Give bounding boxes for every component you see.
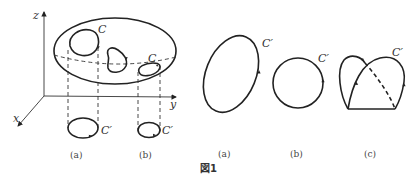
c-prime-label: C′: [318, 52, 329, 65]
y-axis: [44, 96, 176, 97]
projection-a: C′ (a): [68, 118, 112, 160]
axes-3d: z y x: [13, 9, 177, 126]
panel-b: C′ (b): [273, 52, 329, 159]
panel-c: C′ (c): [340, 46, 406, 159]
curve-c-label: C: [98, 23, 107, 36]
surface-curve-b: C: [139, 52, 160, 76]
figure-1: z y x C C C′ (a) C′: [0, 0, 415, 184]
sub-caption: (a): [70, 150, 82, 160]
c-prime-label: C′: [392, 46, 403, 59]
curve-c-prime: [193, 28, 269, 121]
curve-c-a: [70, 30, 99, 56]
surface-curve-mid: [108, 48, 128, 72]
curve-segment-hidden: [365, 63, 395, 109]
c-prime-label: C′: [262, 37, 273, 50]
surface-equator: [54, 55, 176, 64]
sub-caption: (a): [218, 149, 230, 159]
arrow-icon: [321, 79, 324, 82]
c-prime-label: C′: [101, 124, 112, 137]
curve-mid: [108, 48, 127, 72]
c-prime-label: C′: [162, 124, 173, 137]
sub-caption: (c): [364, 149, 376, 159]
surface-curve-a: C: [70, 23, 107, 56]
curve-c-prime: [138, 123, 160, 138]
y-axis-label: y: [169, 98, 177, 111]
curve-c-prime: [273, 58, 323, 108]
sub-caption: (b): [290, 149, 303, 159]
sub-caption: (b): [139, 150, 152, 160]
projection-b: C′ (b): [138, 123, 173, 161]
x-axis: [18, 96, 44, 126]
z-axis-label: z: [32, 9, 39, 22]
figure-caption: 図1: [200, 163, 217, 174]
curve-c-prime: [68, 118, 98, 138]
curve-c-label: C: [148, 52, 157, 65]
panel-a: C′ (a): [193, 28, 274, 159]
curve-segment: [340, 56, 365, 109]
x-axis-label: x: [13, 112, 20, 125]
